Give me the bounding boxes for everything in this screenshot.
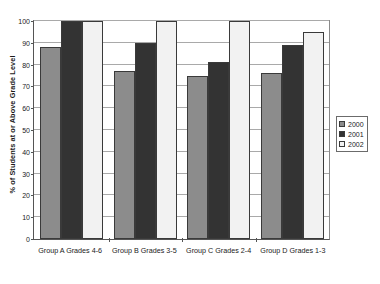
chart-title xyxy=(0,0,380,5)
x-tick-label: Group A Grades 4-6 xyxy=(33,246,107,255)
bar[interactable] xyxy=(156,21,177,239)
bar[interactable] xyxy=(282,45,303,239)
bar-chart: % of Students at or Above Grade Level 01… xyxy=(0,0,380,284)
x-tick-label: Group B Grades 3-5 xyxy=(107,246,181,255)
legend-label: 2002 xyxy=(348,141,364,148)
y-axis-title: % of Students at or Above Grade Level xyxy=(8,37,17,213)
bar[interactable] xyxy=(303,32,324,239)
y-tick-mark xyxy=(31,130,34,131)
bar[interactable] xyxy=(187,76,208,240)
legend-swatch-icon xyxy=(339,121,345,127)
bar[interactable] xyxy=(208,62,229,239)
plot-area: 0102030405060708090100 xyxy=(33,20,330,240)
legend-item[interactable]: 2001 xyxy=(339,129,364,139)
y-tick-label: 100 xyxy=(18,18,30,25)
legend-item[interactable]: 2000 xyxy=(339,119,364,129)
bar[interactable] xyxy=(61,21,82,239)
y-tick-mark xyxy=(31,239,34,240)
y-tick-mark xyxy=(31,174,34,175)
bar-group xyxy=(35,21,109,239)
y-tick-mark xyxy=(31,86,34,87)
legend-item[interactable]: 2002 xyxy=(339,139,364,149)
bar-group xyxy=(256,21,330,239)
y-tick-mark xyxy=(31,108,34,109)
bar[interactable] xyxy=(261,73,282,239)
y-tick-mark xyxy=(31,152,34,153)
legend-swatch-icon xyxy=(339,141,345,147)
y-tick-label: 50 xyxy=(22,127,30,134)
legend-swatch-icon xyxy=(339,131,345,137)
bar-group xyxy=(182,21,256,239)
legend-label: 2000 xyxy=(348,121,364,128)
y-tick-mark xyxy=(31,217,34,218)
bar[interactable] xyxy=(40,47,61,239)
y-tick-label: 20 xyxy=(22,192,30,199)
y-tick-label: 40 xyxy=(22,148,30,155)
x-axis-tick-labels: Group A Grades 4-6Group B Grades 3-5Grou… xyxy=(33,246,330,255)
y-tick-label: 0 xyxy=(26,236,30,243)
x-tick-label: Group C Grades 2-4 xyxy=(182,246,256,255)
legend-label: 2001 xyxy=(348,131,364,138)
y-tick-label: 10 xyxy=(22,214,30,221)
y-tick-mark xyxy=(31,195,34,196)
bar[interactable] xyxy=(229,21,250,239)
y-tick-label: 70 xyxy=(22,83,30,90)
y-tick-mark xyxy=(31,21,34,22)
bar[interactable] xyxy=(82,21,103,239)
legend: 200020012002 xyxy=(336,116,368,152)
bar-group xyxy=(109,21,183,239)
y-tick-mark xyxy=(31,65,34,66)
y-tick-label: 80 xyxy=(22,61,30,68)
x-tick-label: Group D Grades 1-3 xyxy=(256,246,330,255)
bar[interactable] xyxy=(135,43,156,239)
y-tick-mark xyxy=(31,43,34,44)
y-tick-label: 90 xyxy=(22,39,30,46)
bar-groups xyxy=(35,21,329,239)
y-tick-label: 30 xyxy=(22,170,30,177)
bar[interactable] xyxy=(114,71,135,239)
y-tick-label: 60 xyxy=(22,105,30,112)
